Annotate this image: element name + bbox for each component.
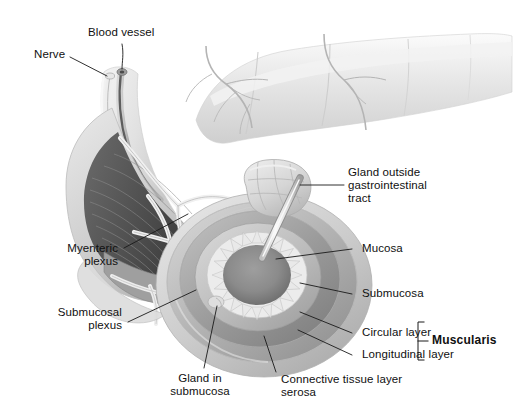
label-nerve: Nerve bbox=[34, 48, 65, 61]
label-gland-outside-line3: tract bbox=[348, 192, 371, 205]
anatomy-figure: Blood vessel Nerve Gland outside gastroi… bbox=[0, 0, 529, 413]
label-connective-tissue-line1: Connective tissue layer bbox=[281, 373, 402, 386]
label-myenteric-plexus-line2: plexus bbox=[0, 255, 118, 268]
label-circular-layer: Circular layer bbox=[362, 326, 431, 339]
label-gland-in-submucosa-line1: Gland in bbox=[140, 372, 260, 385]
leader-nerve bbox=[70, 57, 107, 76]
gland-in-submucosa bbox=[208, 296, 224, 308]
label-gland-outside-line2: gastrointestinal bbox=[348, 179, 427, 192]
label-submucosal-plexus-line1: Submucosal bbox=[0, 306, 122, 319]
label-submucosa: Submucosa bbox=[362, 287, 424, 300]
label-connective-tissue-line2: serosa bbox=[281, 386, 316, 399]
label-submucosal-plexus-line2: plexus bbox=[0, 319, 122, 332]
label-longitudinal-layer: Longitudinal layer bbox=[362, 348, 454, 361]
label-mucosa: Mucosa bbox=[362, 242, 403, 255]
label-blood-vessel: Blood vessel bbox=[88, 26, 154, 39]
label-gland-outside-line1: Gland outside bbox=[348, 166, 420, 179]
label-myenteric-plexus-line1: Myenteric bbox=[0, 242, 118, 255]
label-gland-in-submucosa-line2: submucosa bbox=[140, 385, 260, 398]
leader-blood-vessel bbox=[122, 44, 123, 69]
gut-tube-segment bbox=[186, 34, 512, 144]
label-muscularis: Muscularis bbox=[432, 334, 497, 347]
